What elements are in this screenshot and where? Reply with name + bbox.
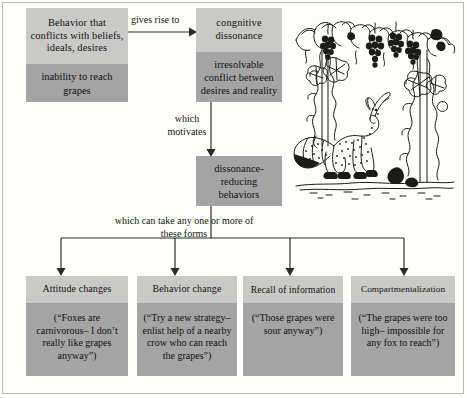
node-cognitive-dissonance: congnitive dissonance irresolvable confl…	[196, 8, 282, 102]
connector-label-which-can-take-forms: which can take any one or more of these …	[104, 215, 264, 240]
node-attitude-changes-body: (“Foxes are carnivorous– I don’t really …	[26, 303, 128, 376]
connector-label-which-motivates: which motivates	[164, 113, 210, 138]
node-conflicting-behavior-header: Behavior that conflicts with beliefs, id…	[26, 8, 128, 64]
diagram-page: gives rise to which motivates which can …	[0, 0, 467, 398]
node-dissonance-reducing-behaviors-body: dissonance- reducing behaviors	[196, 156, 282, 206]
node-recall-of-information-body: (“Those grapes were sour anyway”)	[243, 303, 343, 376]
node-recall-of-information-header: Recall of information	[243, 276, 343, 303]
node-behavior-change-header: Behavior change	[137, 276, 237, 303]
node-dissonance-reducing-behaviors: dissonance- reducing behaviors	[196, 156, 282, 202]
node-behavior-change: Behavior change (“Try a new strategy– en…	[137, 276, 237, 376]
node-attitude-changes: Attitude changes (“Foxes are carnivorous…	[26, 276, 128, 376]
node-compartmentalization: Compartmentalization (“The grapes were t…	[351, 276, 455, 376]
node-conflicting-behavior-body: inability to reach grapes	[26, 64, 128, 102]
node-behavior-change-body: (“Try a new strategy– enlist help of a n…	[137, 303, 237, 376]
node-cognitive-dissonance-body: irresolvable conflict between desires an…	[196, 52, 282, 102]
connector-label-gives-rise-to: gives rise to	[131, 14, 179, 27]
node-cognitive-dissonance-header: congnitive dissonance	[196, 8, 282, 52]
node-compartmentalization-header: Compartmentalization	[351, 276, 455, 303]
fox-and-grapes-illustration	[292, 6, 458, 210]
node-conflicting-behavior: Behavior that conflicts with beliefs, id…	[26, 8, 128, 102]
node-attitude-changes-header: Attitude changes	[26, 276, 128, 303]
node-recall-of-information: Recall of information (“Those grapes wer…	[243, 276, 343, 376]
node-compartmentalization-body: (“The grapes were too high– impossible f…	[351, 303, 455, 376]
